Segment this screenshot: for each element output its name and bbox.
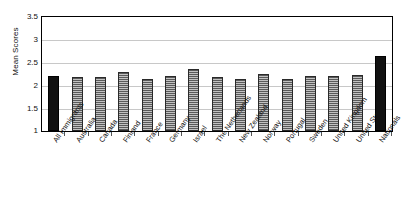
x-tick <box>391 132 392 136</box>
x-tick <box>111 132 112 136</box>
bar <box>48 76 59 131</box>
bar <box>352 75 363 131</box>
bar <box>235 79 246 131</box>
bar <box>95 77 106 131</box>
bar <box>72 77 83 131</box>
bar <box>375 56 386 131</box>
x-tick <box>158 132 159 136</box>
x-tick <box>134 132 135 136</box>
bar <box>258 74 269 131</box>
y-tick-label: 2.5 <box>4 59 38 67</box>
y-axis-tick-labels: 3.5 3 2.5 2 1.5 1 <box>0 0 38 198</box>
bar-chart: Mean Scores 3.5 3 2.5 2 1.5 1 All Immigr… <box>0 0 410 198</box>
x-tick <box>344 132 345 136</box>
bar <box>282 79 293 131</box>
bar <box>142 79 153 131</box>
bar <box>165 76 176 131</box>
x-tick <box>368 132 369 136</box>
x-tick <box>181 132 182 136</box>
x-tick <box>88 132 89 136</box>
x-tick <box>274 132 275 136</box>
x-tick <box>64 132 65 136</box>
y-tick-label: 3.5 <box>4 13 38 21</box>
x-axis-ticks <box>41 132 393 137</box>
bar <box>188 69 199 131</box>
y-tick-label: 1 <box>4 127 38 135</box>
x-tick <box>298 132 299 136</box>
x-tick <box>204 132 205 136</box>
x-tick <box>251 132 252 136</box>
y-tick-label: 3 <box>4 36 38 44</box>
y-tick-label: 1.5 <box>4 105 38 113</box>
x-tick <box>321 132 322 136</box>
bars-layer <box>42 17 392 131</box>
bar <box>328 76 339 131</box>
bar <box>305 76 316 131</box>
plot-area <box>41 16 393 132</box>
bar <box>212 77 223 131</box>
x-tick <box>228 132 229 136</box>
bar <box>118 72 129 131</box>
y-tick-label: 2 <box>4 82 38 90</box>
